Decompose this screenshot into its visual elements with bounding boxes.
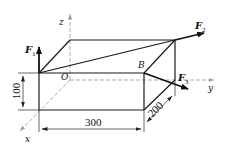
x-axis-label: x	[25, 134, 30, 144]
length-dimension-label: 300	[85, 116, 102, 128]
y-axis-label: y	[207, 83, 214, 93]
x-axis	[20, 80, 70, 131]
height-dimension-label: 100	[10, 82, 22, 99]
force-f1-label: F 1	[24, 44, 36, 58]
box-top-right-edge	[144, 40, 175, 73]
depth-dimension-label: 200	[145, 99, 166, 120]
box-force-diagram: z y x O B F 1 F 2 F 3 300 100 200	[0, 0, 226, 145]
force-f3-label: F 3	[177, 72, 189, 86]
origin-label: O	[61, 72, 69, 82]
svg-text:3: 3	[185, 78, 189, 86]
force-f2-arrow	[175, 33, 204, 40]
point-b-label: B	[137, 60, 145, 70]
force-f2-label: F 2	[194, 20, 206, 34]
z-axis-label: z	[58, 17, 64, 27]
box-top-left-edge	[39, 40, 70, 73]
box-diagonal	[39, 40, 175, 73]
svg-text:2: 2	[202, 26, 206, 34]
svg-text:1: 1	[32, 50, 36, 58]
